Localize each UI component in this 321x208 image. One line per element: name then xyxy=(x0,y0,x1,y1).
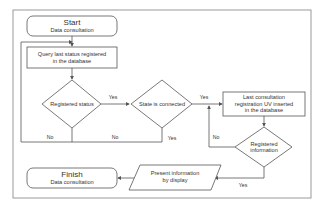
last-consultation-line3: in the database xyxy=(245,107,283,113)
finish-node: Finish Data consultation xyxy=(27,168,117,188)
query-process-node: Query last status registered in the data… xyxy=(27,47,117,68)
registered-information-decision: Registered information xyxy=(235,127,292,167)
registered-information-line2: information xyxy=(250,147,278,153)
registered-status-label: Registered status xyxy=(50,101,94,107)
flowchart: Start Data consultation Query last statu… xyxy=(0,0,321,208)
finish-subtitle: Data consultation xyxy=(50,179,93,185)
registered-status-decision: Registered status xyxy=(42,80,101,128)
edge-label-yes: Yes xyxy=(200,94,209,100)
last-consultation-line2: registration UV inserted xyxy=(235,101,293,107)
present-information-line1: Present information xyxy=(151,170,200,176)
query-line1: Query last status registered xyxy=(38,51,106,57)
state-connected-decision: State is connected xyxy=(131,80,192,128)
present-information-line2: by display xyxy=(163,177,188,183)
edge-label-no: No xyxy=(213,134,220,140)
edge-label-yes: Yes xyxy=(239,182,248,188)
edge-label-yes: Yes xyxy=(168,135,177,141)
edge-label-no: No xyxy=(112,134,119,140)
finish-title: Finish xyxy=(61,170,82,179)
query-line2: in the database xyxy=(53,58,91,64)
state-connected-label: State is connected xyxy=(139,101,185,107)
start-title: Start xyxy=(64,18,82,27)
start-node: Start Data consultation xyxy=(27,16,117,36)
edge-label-yes: Yes xyxy=(109,94,118,100)
edge-label-no: No xyxy=(47,134,54,140)
start-subtitle: Data consultation xyxy=(50,27,93,33)
present-information-io-node: Present information by display xyxy=(129,165,221,190)
last-consultation-process-node: Last consultation registration UV insert… xyxy=(223,92,305,116)
last-consultation-line1: Last consultation xyxy=(243,94,285,100)
